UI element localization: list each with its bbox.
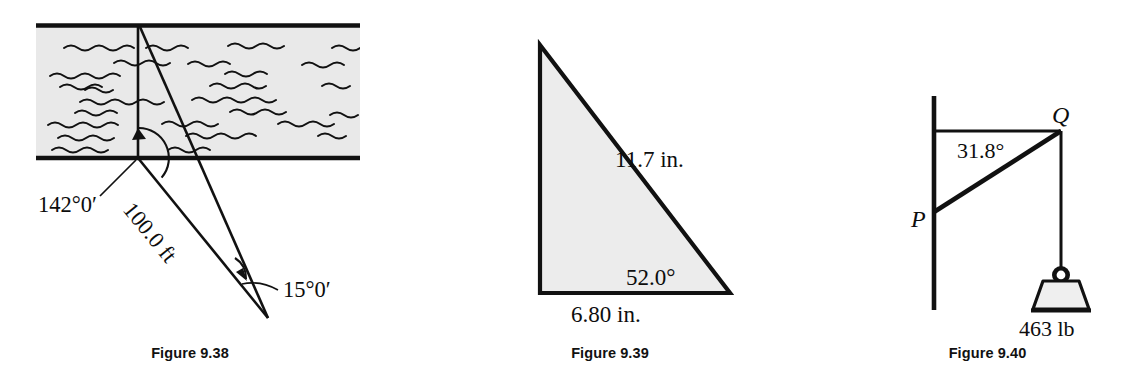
figure-9-39-drawing: 11.7 in. 52.0° 6.80 in. bbox=[440, 0, 780, 345]
figure-panel-9-40: Q P 31.8° 463 lb Figure 9.40 bbox=[840, 0, 1135, 382]
label-point-P: P bbox=[910, 206, 926, 232]
label-base-6-80in: 6.80 in. bbox=[571, 302, 641, 327]
label-hypotenuse-11-7in: 11.7 in. bbox=[615, 147, 684, 172]
figure-panel-9-38: 142°0′ 100.0 ft 15°0′ Figure 9.38 bbox=[0, 0, 380, 382]
hook-ring-hole bbox=[1057, 271, 1066, 280]
label-angle-15: 15°0′ bbox=[283, 277, 331, 302]
label-weight-463lb: 463 lb bbox=[1019, 316, 1075, 341]
label-angle-142: 142°0′ bbox=[38, 192, 97, 217]
label-angle-52: 52.0° bbox=[626, 265, 675, 290]
hanging-weight bbox=[1033, 281, 1089, 309]
label-angle-31-8: 31.8° bbox=[957, 138, 1004, 163]
figure-9-38-drawing: 142°0′ 100.0 ft 15°0′ bbox=[0, 0, 380, 345]
caption-figure-9-38: Figure 9.38 bbox=[0, 345, 380, 361]
caption-figure-9-40: Figure 9.40 bbox=[840, 345, 1135, 361]
label-point-Q: Q bbox=[1052, 102, 1069, 128]
caption-figure-9-39: Figure 9.39 bbox=[440, 345, 780, 361]
figure-board: 142°0′ 100.0 ft 15°0′ Figure 9.38 11.7 i… bbox=[0, 0, 1135, 382]
label-distance-100ft: 100.0 ft bbox=[118, 197, 182, 267]
figure-panel-9-39: 11.7 in. 52.0° 6.80 in. Figure 9.39 bbox=[440, 0, 780, 382]
leader-15 bbox=[242, 283, 278, 290]
leader-142 bbox=[100, 160, 136, 196]
figure-9-40-drawing: Q P 31.8° 463 lb bbox=[840, 0, 1135, 345]
